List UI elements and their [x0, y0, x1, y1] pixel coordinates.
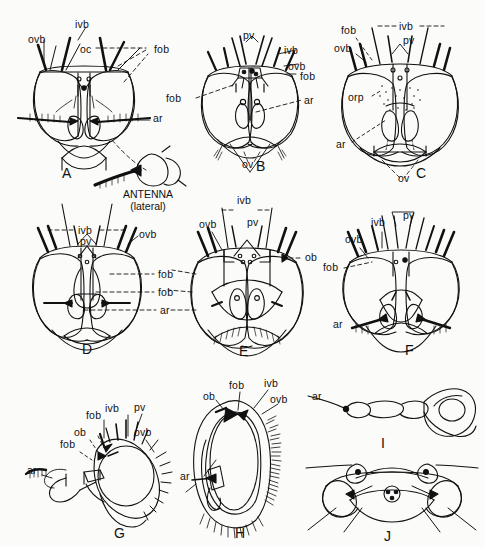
- label-panel-h-fob: fob: [229, 379, 244, 391]
- label-panel-f-fob: fob: [323, 261, 338, 273]
- label-panel-c-pv: pv: [403, 34, 415, 46]
- label-panel-a-ivb: ivb: [75, 18, 89, 30]
- label-panel-b-ar: ar: [304, 94, 314, 106]
- label-panel-g-fob-upper: fob: [86, 409, 101, 421]
- label-panel-b-ov: ov: [242, 158, 254, 170]
- label-panel-e-pv: pv: [247, 216, 259, 228]
- antenna-caption-line1: ANTENNA: [123, 188, 173, 200]
- label-panel-d-fob1: fob: [158, 268, 173, 280]
- figure-plate: ovb ivb oc fob ar ANTENNA (lateral) pv i…: [0, 0, 485, 547]
- label-panel-f-ovb: ovb: [345, 233, 363, 245]
- label-panel-d-pv: pv: [80, 235, 92, 247]
- label-panel-h-ob: ob: [203, 390, 215, 402]
- label-panel-d-ar: ar: [160, 304, 170, 316]
- panel-b-drawing: [196, 36, 302, 172]
- label-panel-b-fob-left: fob: [166, 92, 181, 104]
- label-panel-h-ar: ar: [180, 470, 190, 482]
- label-panel-g-ovb: ovb: [134, 426, 152, 438]
- label-panel-f-ar: ar: [333, 318, 343, 330]
- label-panel-i-ar: ar: [312, 390, 322, 402]
- label-panel-a-ar: ar: [153, 112, 163, 124]
- label-panel-g-fob-lower: fob: [60, 438, 75, 450]
- panel-i-drawing: [308, 389, 476, 437]
- label-panel-g-ivb: ivb: [105, 402, 119, 414]
- label-panel-a-fob: fob: [154, 43, 169, 55]
- label-panel-e-ob: ob: [305, 251, 317, 263]
- label-panel-g-ob: ob: [74, 426, 86, 438]
- panel-letter-h: H: [235, 525, 245, 541]
- label-panel-c-fob: fob: [341, 24, 356, 36]
- panel-letter-d: D: [82, 341, 92, 357]
- panel-letter-a: A: [62, 165, 71, 181]
- label-panel-e-ivb: ivb: [237, 194, 251, 206]
- label-panel-c-ar: ar: [336, 138, 346, 150]
- label-panel-a-oc: oc: [80, 43, 92, 55]
- label-panel-c-ov: ov: [398, 172, 410, 184]
- label-panel-f-pv: pv: [403, 209, 415, 221]
- label-panel-e-ovb: ovb: [199, 218, 217, 230]
- label-panel-b-fob-right: fob: [300, 70, 315, 82]
- label-panel-c-ovb: ovb: [334, 42, 352, 54]
- label-panel-c-orp: orp: [348, 91, 364, 103]
- label-panel-h-ovb: ovb: [270, 393, 288, 405]
- panel-j-drawing: [306, 464, 478, 532]
- label-panel-d-fob2: fob: [158, 286, 173, 298]
- label-panel-f-ivb: ivb: [371, 216, 385, 228]
- panel-letter-f: F: [405, 342, 414, 358]
- antenna-lateral-inset: [95, 146, 186, 188]
- label-panel-d-ovb: ovb: [139, 228, 157, 240]
- panel-letter-g: G: [114, 525, 125, 541]
- antenna-caption: ANTENNA (lateral): [100, 188, 196, 212]
- label-panel-c-ivb: ivb: [399, 20, 413, 32]
- label-panel-a-ovb: ovb: [28, 33, 46, 45]
- panel-d-drawing: [33, 204, 157, 350]
- panel-letter-e: E: [239, 343, 248, 359]
- label-panel-b-ivb: ivb: [284, 44, 298, 56]
- panel-letter-c: C: [416, 165, 426, 181]
- label-panel-b-pv: pv: [243, 29, 255, 41]
- label-panel-g-ar: ar: [27, 464, 37, 476]
- label-panel-h-ivb: ivb: [264, 377, 278, 389]
- antenna-caption-line2: (lateral): [130, 200, 166, 212]
- panel-letter-i: I: [381, 435, 385, 451]
- panel-letter-b: B: [256, 158, 265, 174]
- panel-e-drawing: [168, 208, 303, 356]
- plate-linework: [0, 0, 485, 547]
- panel-h-drawing: [186, 390, 281, 538]
- panel-letter-j: J: [384, 528, 391, 544]
- label-panel-g-pv: pv: [134, 401, 146, 413]
